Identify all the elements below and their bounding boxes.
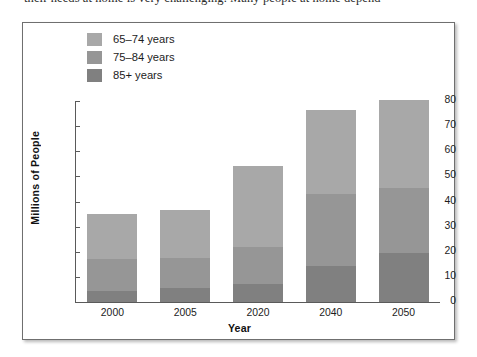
x-axis-tick-label: 2005: [149, 307, 222, 318]
bar-segment-2005-1: [160, 258, 210, 288]
figure-frame: 65–74 years75–84 years85+ years Millions…: [22, 22, 455, 340]
bar-segment-2040-1: [306, 194, 356, 266]
bar-segment-2040-0: [306, 266, 356, 302]
bar-segment-2000-1: [87, 259, 137, 290]
x-axis-title: Year: [23, 322, 456, 334]
y-axis-tick: [75, 302, 80, 303]
y-axis-title: Millions of People: [29, 131, 41, 225]
bar-2000: [87, 214, 137, 302]
x-axis-tick-label: 2000: [76, 307, 149, 318]
bar-segment-2005-0: [160, 288, 210, 302]
bar-2020: [233, 166, 283, 302]
bar-2040: [306, 110, 356, 302]
bar-segment-2000-2: [87, 214, 137, 259]
x-axis-tick-label: 2050: [367, 307, 440, 318]
bar-segment-2005-2: [160, 210, 210, 258]
figure-page: their needs at home is very challenging.…: [0, 0, 477, 357]
bar-segment-2020-1: [233, 247, 283, 285]
page-body-text-sliver: their needs at home is very challenging.…: [24, 0, 454, 5]
bar-2005: [160, 210, 210, 302]
bar-segment-2020-0: [233, 284, 283, 302]
bar-2050: [379, 100, 429, 302]
x-axis-tick-label: 2020: [222, 307, 295, 318]
bar-group: [76, 101, 440, 302]
bar-segment-2000-0: [87, 291, 137, 302]
bar-segment-2050-2: [379, 100, 429, 188]
bar-segment-2040-2: [306, 110, 356, 194]
plot-area: Millions of People 01020304050607080 200…: [23, 23, 456, 341]
x-axis-tick-label: 2040: [294, 307, 367, 318]
bar-segment-2050-1: [379, 188, 429, 253]
x-axis-line: [75, 302, 440, 303]
bar-segment-2050-0: [379, 253, 429, 302]
bar-segment-2020-2: [233, 166, 283, 246]
